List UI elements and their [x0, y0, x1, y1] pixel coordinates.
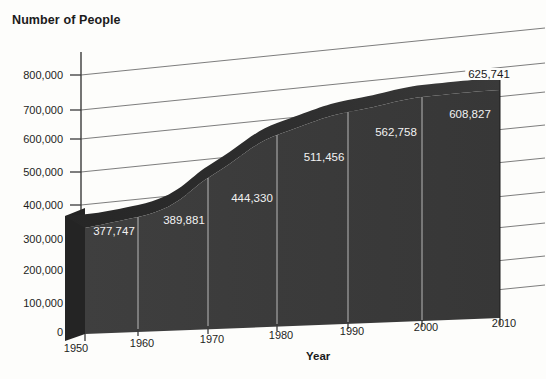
- x-tick-label-1950: 1950: [64, 342, 88, 354]
- x-tick-label-1960: 1960: [130, 337, 154, 349]
- y-tick-label: 700,000: [0, 104, 63, 116]
- x-tick-label-1980: 1980: [269, 329, 293, 341]
- chart-plot-area: [0, 0, 546, 379]
- y-tick-label: 600,000: [0, 133, 63, 145]
- x-tick-label-1970: 1970: [200, 333, 224, 345]
- x-axis-title: Year: [306, 350, 330, 362]
- y-tick-label: 300,000: [0, 233, 63, 245]
- x-tick-label-2000: 2000: [414, 321, 438, 333]
- area-side-face: [65, 208, 85, 341]
- y-tick-label: 500,000: [0, 166, 63, 178]
- y-tick-label: 100,000: [0, 297, 63, 309]
- x-tick-label-1990: 1990: [340, 325, 364, 337]
- y-tick-label: 0: [0, 326, 63, 338]
- chart-container: Number of People: [0, 0, 546, 379]
- y-tick-label: 800,000: [0, 69, 63, 81]
- y-tick-label: 200,000: [0, 264, 63, 276]
- x-tick-label-2010: 2010: [492, 317, 516, 329]
- y-tick-label: 400,000: [0, 199, 63, 211]
